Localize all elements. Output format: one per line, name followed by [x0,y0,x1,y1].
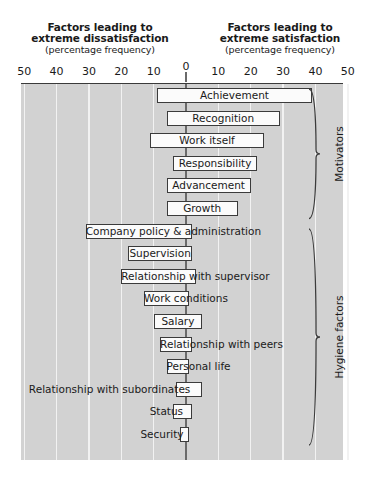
bar-label: Relationship with supervisor [121,269,195,284]
title-left-line3: (percentage frequency) [14,44,186,55]
bar-row: Recognition [21,111,343,126]
bar-row: Growth [21,201,343,216]
bar-label: Salary [154,314,203,329]
bar-row: Achievement [21,88,343,103]
bar-label: Achievement [157,88,312,103]
title-left-line2: extreme dissatisfaction [14,33,186,44]
bar-label: Work conditions [144,291,189,306]
bar-label: Advancement [167,178,251,193]
bar-row: Relationship with subordinates [21,382,343,397]
chart-title-satisfaction: Factors leading to extreme satisfaction … [196,22,364,55]
bar-label: Security [21,427,186,442]
bar-row: Status [21,404,343,419]
axis-tick-minus10: 10 [141,65,167,78]
herzberg-two-factor-chart: Factors leading to extreme dissatisfacti… [0,0,370,487]
axis-tick-minus20: 20 [108,65,134,78]
bar-label: Status [21,404,185,419]
zero-tick-stem [185,72,186,82]
plot-area: AchievementRecognitionWork itselfRespons… [21,84,343,460]
x-axis-tick-labels: 504030201001020304050 [0,64,370,80]
brace-label-motivators: Motivators [333,126,345,182]
bar-label: Work itself [150,133,263,148]
bar-row: Work conditions [21,291,343,306]
bar-label: Recognition [167,111,280,126]
brace-motivators: Motivators [307,86,341,222]
bar-row: Supervision [21,246,343,261]
axis-tick-minus50: 50 [11,65,37,78]
chart-title-dissatisfaction: Factors leading to extreme dissatisfacti… [14,22,186,55]
bar-row: Advancement [21,178,343,193]
bar-label: Relationship with peers [160,337,192,352]
bar-row: Responsibility [21,156,343,171]
bar-row: Personal life [21,359,343,374]
bar-label: Personal life [167,359,190,374]
axis-tick-minus40: 40 [44,65,70,78]
brace-hygiene-factors: Hygiene factors [307,226,341,448]
axis-tick-30: 30 [270,65,296,78]
title-right-line3: (percentage frequency) [196,44,364,55]
bar-row: Security [21,427,343,442]
bar-row: Relationship with peers [21,337,343,352]
axis-tick-10: 10 [205,65,231,78]
bar-row: Work itself [21,133,343,148]
axis-tick-minus30: 30 [76,65,102,78]
bar-label: Relationship with subordinates [21,382,192,397]
gridline-50-pos [347,84,349,460]
title-right-line2: extreme satisfaction [196,33,364,44]
axis-tick-50: 50 [335,65,361,78]
bar-label: Supervision [128,246,193,261]
bar-row: Salary [21,314,343,329]
bar-row: Company policy & administration [21,224,343,239]
brace-label-hygiene-factors: Hygiene factors [333,295,345,378]
bar-row: Relationship with supervisor [21,269,343,284]
axis-tick-40: 40 [302,65,328,78]
axis-tick-20: 20 [238,65,264,78]
bar-label: Growth [167,201,238,216]
bar-label: Company policy & administration [86,224,193,239]
bar-label: Responsibility [173,156,257,171]
